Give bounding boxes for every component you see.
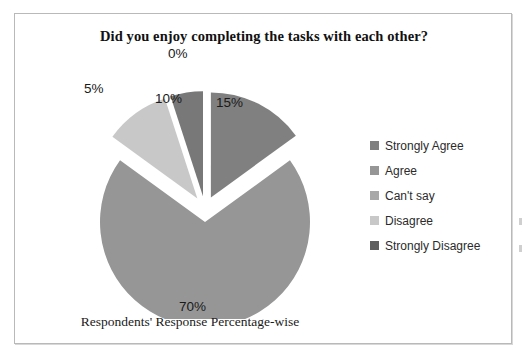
legend-item-label: Can't say: [385, 189, 435, 203]
chart-frame: Did you enjoy completing the tasks with …: [14, 13, 512, 344]
legend-item-label: Strongly Agree: [385, 139, 464, 153]
chart-legend: Strongly Agree Agree Can't say Disagree …: [370, 133, 510, 258]
pie-slice[interactable]: [100, 160, 310, 319]
slice-label-disagree: 10%: [155, 91, 182, 106]
slice-label-strongly-agree: 15%: [216, 95, 243, 110]
legend-item-label: Strongly Disagree: [385, 239, 480, 253]
slice-label-strongly-disagree: 5%: [84, 81, 104, 96]
slice-label-cant-say: 0%: [168, 46, 188, 61]
legend-swatch-icon: [370, 216, 379, 225]
chart-screenshot: Did you enjoy completing the tasks with …: [0, 0, 529, 364]
axis-caption: Respondents' Response Percentage-wise: [15, 314, 365, 330]
legend-item-label: Disagree: [385, 214, 433, 228]
scan-speckle: [519, 245, 522, 252]
legend-item-disagree[interactable]: Disagree: [370, 208, 510, 233]
scan-speckle: [519, 218, 522, 225]
pie-chart-graphic: [15, 44, 365, 319]
legend-item-strongly-agree[interactable]: Strongly Agree: [370, 133, 510, 158]
legend-item-cant-say[interactable]: Can't say: [370, 183, 510, 208]
legend-swatch-icon: [370, 191, 379, 200]
legend-swatch-icon: [370, 241, 379, 250]
legend-swatch-icon: [370, 141, 379, 150]
legend-item-label: Agree: [385, 164, 417, 178]
legend-swatch-icon: [370, 166, 379, 175]
pie-plot-area: 0% 10% 15% 5% 70%: [15, 44, 365, 319]
pie-slice-group: [100, 91, 310, 319]
slice-label-agree: 70%: [179, 299, 206, 314]
chart-title: Did you enjoy completing the tasks with …: [15, 28, 513, 45]
legend-item-strongly-disagree[interactable]: Strongly Disagree: [370, 233, 510, 258]
legend-item-agree[interactable]: Agree: [370, 158, 510, 183]
